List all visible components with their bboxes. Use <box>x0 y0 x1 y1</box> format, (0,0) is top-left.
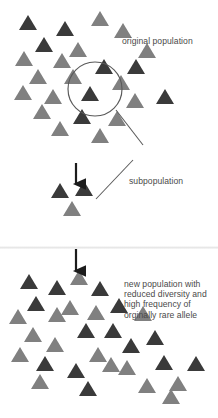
new-population-triangle <box>87 305 105 320</box>
original-population-triangle <box>35 37 53 52</box>
new-population-triangle <box>91 281 109 296</box>
original-population-triangle <box>156 89 174 104</box>
new-population-triangle <box>79 381 97 396</box>
new-population-triangle <box>48 280 66 295</box>
original-population-triangle <box>44 89 62 104</box>
original-population-triangle <box>56 21 74 36</box>
original-population-triangle <box>127 59 145 74</box>
original-population-triangle <box>95 59 113 74</box>
subpopulation-triangle <box>63 201 81 216</box>
new-population-triangle <box>24 327 42 342</box>
new-population-triangle <box>77 323 95 338</box>
original-population-triangle <box>29 69 47 84</box>
new-population-triangle <box>102 357 120 372</box>
new-population-triangle <box>67 363 85 378</box>
leader-group-to-label <box>96 160 133 199</box>
new-population-triangle <box>27 296 45 311</box>
new-population-triangle <box>187 356 205 371</box>
original-population-triangle <box>53 53 71 68</box>
original-population-triangle <box>19 15 37 30</box>
diagram-canvas: original population subpopulation new po… <box>0 0 218 418</box>
subpopulation-triangle <box>75 181 93 196</box>
original-population-triangle <box>15 51 33 66</box>
original-population-triangle <box>14 85 32 100</box>
original-population-triangle <box>126 93 144 108</box>
original-population-triangle <box>69 42 87 57</box>
original-population-triangle <box>112 75 130 90</box>
new-population-triangle <box>46 337 64 352</box>
new-population-triangle <box>11 347 29 362</box>
new-population-triangle <box>36 356 54 371</box>
new-population-triangle <box>70 270 88 285</box>
original-population-triangle <box>108 111 126 126</box>
new-population-triangle <box>122 338 140 353</box>
new-population-triangle <box>155 355 173 370</box>
new-population-triangle <box>9 309 27 324</box>
new-population-triangle <box>31 374 49 389</box>
new-population-triangle <box>118 360 136 375</box>
original-population-triangle <box>91 11 109 26</box>
original-population-triangle <box>81 86 99 101</box>
new-population-triangle <box>20 274 38 289</box>
original-population-triangle <box>73 109 91 124</box>
label-new-population: new population with reduced diversity an… <box>124 279 207 320</box>
label-original-population: original population <box>122 36 193 46</box>
original-population-triangle <box>91 128 109 143</box>
original-population-triangle <box>51 121 69 136</box>
new-population-triangle <box>48 307 66 322</box>
new-population-triangle <box>104 323 122 338</box>
section-divider <box>0 246 218 249</box>
new-population-triangle <box>162 389 180 404</box>
original-population-triangle <box>64 69 82 84</box>
label-subpopulation: subpopulation <box>129 176 183 186</box>
original-population-triangle <box>33 104 51 119</box>
subpopulation-triangle <box>51 183 69 198</box>
new-population-triangle <box>138 378 156 393</box>
new-population-triangle <box>146 330 164 345</box>
